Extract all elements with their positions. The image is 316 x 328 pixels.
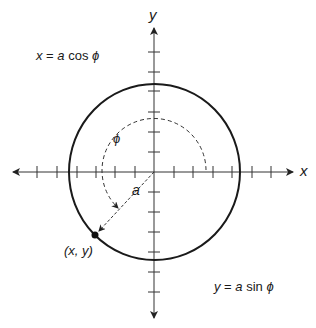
angle-label: ϕ [113,131,120,146]
y-axis [148,28,160,318]
x-axis [13,166,293,178]
y-axis-label: y [149,6,157,23]
point-label: (x, y) [64,243,93,258]
point-xy [92,232,99,239]
y-equation: y = a sin ϕ [214,279,274,294]
radius-label: a [132,182,140,198]
x-axis-label: x [300,162,308,179]
x-equation: x = a cos ϕ [36,48,99,63]
radius-line [99,172,154,231]
